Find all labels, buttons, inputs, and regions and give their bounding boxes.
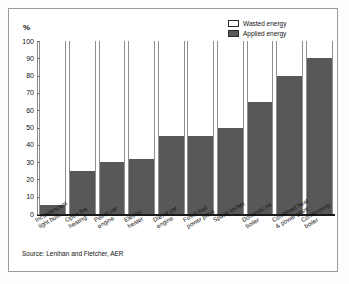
y-axis-tickmark-0 xyxy=(37,214,40,215)
y-axis-tickmark-40 xyxy=(37,145,40,146)
bar-segment-applied xyxy=(307,58,332,214)
y-axis-tickmark-60 xyxy=(37,110,40,111)
y-axis-tickmark-30 xyxy=(37,162,40,163)
bar-stack xyxy=(276,41,303,214)
y-axis-tick-labels: 1009080706050403020100 xyxy=(6,41,34,214)
bar-segment-applied xyxy=(277,76,302,214)
chart-figure: % Wasted energy Applied energy 100908070… xyxy=(0,0,349,284)
bar-column[interactable] xyxy=(217,41,244,214)
y-axis-tick-70: 70 xyxy=(8,89,34,96)
chart-source-note: Source: Lenihan and Fletcher, AER xyxy=(22,250,124,257)
bar-column[interactable] xyxy=(39,41,66,214)
bar-column[interactable] xyxy=(69,41,96,214)
legend-label-applied: Applied energy xyxy=(243,30,286,38)
bar-stack xyxy=(247,41,274,214)
legend-item-wasted-energy: Wasted energy xyxy=(228,19,286,28)
legend-item-applied-energy: Applied energy xyxy=(228,29,286,38)
y-axis-tickmark-100 xyxy=(37,41,40,42)
y-axis-unit-label: % xyxy=(23,23,30,32)
y-axis-tickmark-10 xyxy=(37,197,40,198)
bar-stack xyxy=(128,41,155,214)
bar-column[interactable] xyxy=(187,41,214,214)
bar-column[interactable] xyxy=(247,41,274,214)
bar-stack xyxy=(158,41,185,214)
bar-column[interactable] xyxy=(128,41,155,214)
y-axis-tick-80: 80 xyxy=(8,72,34,79)
bar-stack xyxy=(69,41,96,214)
bar-segment-applied xyxy=(248,102,273,214)
y-axis-tickmark-90 xyxy=(37,58,40,59)
legend-label-wasted: Wasted energy xyxy=(243,20,286,28)
legend-swatch-applied-icon xyxy=(228,30,239,37)
y-axis-tick-50: 50 xyxy=(8,124,34,131)
bar-series-container xyxy=(38,41,334,214)
bar-column[interactable] xyxy=(158,41,185,214)
bar-stack xyxy=(99,41,126,214)
bar-column[interactable] xyxy=(276,41,303,214)
y-axis-tick-100: 100 xyxy=(8,38,34,45)
y-axis-tickmark-20 xyxy=(37,179,40,180)
bar-stack xyxy=(187,41,214,214)
bar-column[interactable] xyxy=(306,41,333,214)
bar-stack xyxy=(39,41,66,214)
y-axis-tick-90: 90 xyxy=(8,55,34,62)
y-axis-tick-60: 60 xyxy=(8,107,34,114)
legend-swatch-wasted-icon xyxy=(228,20,239,27)
bar-segment-applied xyxy=(188,136,213,214)
y-axis-tickmark-70 xyxy=(37,93,40,94)
bar-segment-applied xyxy=(159,136,184,214)
y-axis-tick-10: 10 xyxy=(8,193,34,200)
chart-legend: Wasted energy Applied energy xyxy=(228,19,286,39)
y-axis-tick-30: 30 xyxy=(8,159,34,166)
y-axis-tickmark-50 xyxy=(37,128,40,129)
bar-stack xyxy=(217,41,244,214)
y-axis-tick-40: 40 xyxy=(8,141,34,148)
y-axis-tickmark-80 xyxy=(37,76,40,77)
bar-column[interactable] xyxy=(99,41,126,214)
y-axis-tick-20: 20 xyxy=(8,176,34,183)
bar-stack xyxy=(306,41,333,214)
bar-segment-applied xyxy=(129,159,154,214)
y-axis-tick-0: 0 xyxy=(8,211,34,218)
